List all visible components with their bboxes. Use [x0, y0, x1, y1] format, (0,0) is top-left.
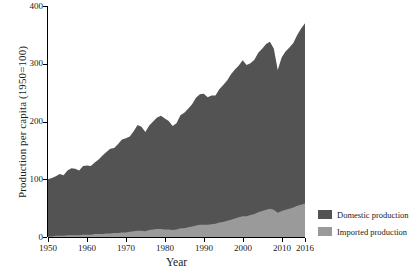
x-tick-mark: [126, 238, 127, 242]
x-tick-label: 1950: [28, 243, 68, 253]
x-tick-label: 1970: [106, 243, 146, 253]
y-tick-label: 300: [17, 59, 43, 68]
y-tick-label: 0: [17, 233, 43, 242]
y-tick-label-wrap: 300: [0, 59, 43, 68]
x-tick-label: 2000: [223, 243, 263, 253]
x-tick-mark: [165, 238, 166, 242]
x-tick-label: 2016: [285, 243, 325, 253]
legend-swatch-icon: [318, 210, 332, 219]
legend-swatch-icon: [318, 227, 332, 236]
x-tick-label: 1980: [145, 243, 185, 253]
chart-legend: Domestic productionImported production: [318, 207, 407, 241]
stacked-area-svg: [48, 6, 305, 237]
x-tick-mark: [204, 238, 205, 242]
legend-item-domestic[interactable]: Domestic production: [318, 207, 407, 222]
legend-item-imported[interactable]: Imported production: [318, 224, 407, 239]
y-tick-label: 100: [17, 175, 43, 184]
plot-area: [48, 6, 305, 237]
y-tick-label-wrap: 0: [0, 233, 43, 242]
y-tick-label: 400: [17, 2, 43, 11]
x-axis-title: Year: [48, 255, 305, 269]
x-tick-mark: [243, 238, 244, 242]
area-domestic-production: [48, 23, 305, 237]
y-tick-label-wrap: 400: [0, 2, 43, 11]
legend-label: Imported production: [337, 227, 407, 237]
x-tick-mark: [282, 238, 283, 242]
x-tick-mark: [87, 238, 88, 242]
x-tick-mark: [48, 238, 49, 242]
x-tick-label: 1960: [67, 243, 107, 253]
x-tick-mark: [305, 238, 306, 242]
y-tick-label-wrap: 200: [0, 117, 43, 126]
y-tick-label-wrap: 100: [0, 175, 43, 184]
x-tick-label: 1990: [184, 243, 224, 253]
y-tick-label: 200: [17, 117, 43, 126]
legend-label: Domestic production: [337, 210, 409, 220]
y-tick-mark: [43, 237, 47, 238]
